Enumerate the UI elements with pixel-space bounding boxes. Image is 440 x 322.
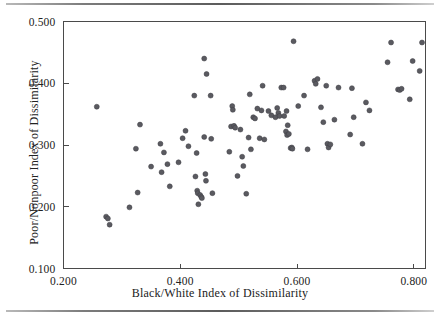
scatter-point <box>107 222 112 227</box>
y-tick-label: 0.500 <box>0 16 56 28</box>
scatter-point <box>135 190 140 195</box>
scatter-point <box>407 97 412 102</box>
scatter-point <box>230 107 235 112</box>
scatter-point <box>318 105 323 110</box>
scatter-point <box>281 85 286 90</box>
y-axis-label: Poor/Nonpoor Index of Dissimilarity <box>27 33 42 273</box>
scatter-point <box>389 40 394 45</box>
scatter-point <box>180 136 185 141</box>
scatter-point <box>235 173 240 178</box>
scatter-point <box>183 128 188 133</box>
scatter-point <box>241 164 246 169</box>
scatter-point <box>302 93 307 98</box>
scatter-point <box>290 146 295 151</box>
scatter-point <box>385 60 390 65</box>
scatter-point <box>332 117 337 122</box>
scatter-point <box>360 141 365 146</box>
scatter-point <box>240 154 245 159</box>
scatter-point <box>348 132 353 137</box>
scatter-point <box>336 85 341 90</box>
scatter-point <box>227 149 232 154</box>
scatter-point <box>209 136 214 141</box>
scatter-point <box>105 216 110 221</box>
plot-frame <box>64 22 426 269</box>
scatter-point <box>202 134 207 139</box>
scatter-point <box>420 40 425 45</box>
scatter-point <box>210 191 215 196</box>
scatter-point <box>176 160 181 165</box>
x-axis-label: Black/White Index of Dissimilarity <box>0 286 440 301</box>
scatter-point <box>328 142 333 147</box>
scatter-point <box>410 59 415 64</box>
scatter-point <box>291 39 296 44</box>
scatter-point <box>253 116 258 121</box>
scatter-point <box>248 147 253 152</box>
scatter-point <box>127 205 132 210</box>
scatter-point <box>324 83 329 88</box>
scatter-point <box>262 137 267 142</box>
scatter-point <box>286 131 291 136</box>
scatter-point <box>246 135 251 140</box>
scatter-point <box>399 86 404 91</box>
x-tick-label: 0.600 <box>284 275 311 287</box>
scatter-point <box>165 162 170 167</box>
scatter-point <box>266 109 271 114</box>
scatter-point <box>363 100 368 105</box>
scatter-point <box>167 184 172 189</box>
scatter-point <box>149 164 154 169</box>
scatter-point <box>313 81 318 86</box>
scatter-point <box>196 202 201 207</box>
scatter-point <box>193 174 198 179</box>
scatter-point <box>257 136 262 141</box>
scatter-point <box>282 113 287 118</box>
scatter-point <box>275 105 280 110</box>
axis-frame-box <box>64 22 426 269</box>
scatter-point <box>158 141 163 146</box>
scatter-point <box>203 172 208 177</box>
scatter-point <box>133 146 138 151</box>
scatter-point <box>204 71 209 76</box>
scatter-point <box>161 150 166 155</box>
scatter-point <box>238 127 243 132</box>
x-tick-label: 0.400 <box>167 275 194 287</box>
x-tick-label: 0.800 <box>400 275 427 287</box>
scatter-point <box>349 86 354 91</box>
scatter-point <box>351 115 356 120</box>
scatter-point <box>233 125 238 130</box>
scatter-point <box>284 109 289 114</box>
scatter-point <box>159 170 164 175</box>
scatter-point <box>208 93 213 98</box>
scatter-point <box>285 123 290 128</box>
scatter-point <box>186 144 191 149</box>
scatter-point <box>417 68 422 73</box>
scatter-point <box>247 92 252 97</box>
scatter-point <box>277 113 282 118</box>
scatter-plot-figure: 0.1000.2000.3000.4000.500 0.2000.4000.60… <box>0 0 440 322</box>
scatter-point <box>260 83 265 88</box>
scatter-point <box>367 108 372 113</box>
scatter-point <box>94 104 99 109</box>
scatter-point <box>244 191 249 196</box>
scatter-point <box>194 151 199 156</box>
scatter-point <box>203 178 208 183</box>
scatter-point <box>137 122 142 127</box>
scatter-point <box>259 108 264 113</box>
scatter-point <box>315 76 320 81</box>
scatter-point <box>305 147 310 152</box>
bottom-divider-rule <box>6 310 434 312</box>
scatter-point <box>202 56 207 61</box>
scatter-point <box>199 196 204 201</box>
scatter-point <box>321 120 326 125</box>
x-tick-label: 0.200 <box>50 275 77 287</box>
scatter-point <box>192 93 197 98</box>
data-points <box>94 39 424 227</box>
scatter-point <box>296 104 301 109</box>
